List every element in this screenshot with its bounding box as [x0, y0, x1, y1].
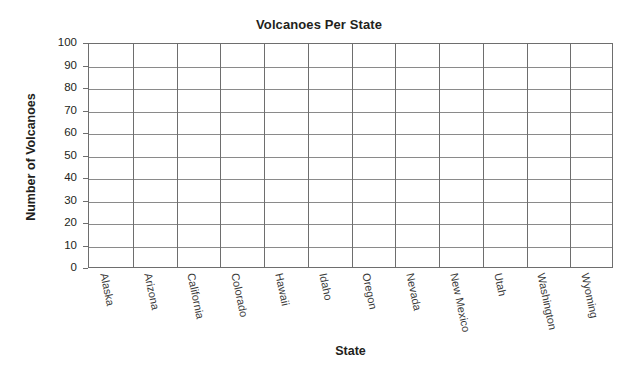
x-axis-tick-label: Washington: [536, 272, 560, 331]
y-axis-tick-labels: 1009080706050403020100: [41, 0, 77, 369]
x-axis-tick-label-slot: Oregon: [351, 268, 395, 343]
vertical-gridlines: [89, 44, 612, 267]
x-axis-tick-label-slot: New Mexico: [438, 268, 482, 343]
y-axis-title: Number of Volcanoes: [24, 57, 38, 257]
gridline-vertical: [527, 44, 528, 267]
y-axis-tick-label: 20: [41, 217, 77, 229]
gridline-vertical: [133, 44, 134, 267]
x-axis-tick-label: Hawaii: [273, 272, 292, 307]
y-axis-tick-label: 10: [41, 240, 77, 252]
x-axis-tick-label-slot: Arizona: [132, 268, 176, 343]
plot-area: [88, 43, 613, 268]
x-axis-tick-label-slot: Washington: [526, 268, 570, 343]
x-axis-tick-label-slot: Alaska: [88, 268, 132, 343]
gridline-vertical: [439, 44, 440, 267]
x-axis-tick-label: Utah: [492, 272, 509, 297]
y-axis-tick-label: 0: [41, 262, 77, 274]
x-axis-tick-labels: AlaskaArizonaCaliforniaColoradoHawaiiIda…: [88, 268, 613, 343]
x-axis-title: State: [88, 344, 613, 358]
x-axis-tick-label: Alaska: [98, 272, 117, 307]
gridline-vertical: [308, 44, 309, 267]
x-axis-tick-label-slot: Wyoming: [569, 268, 613, 343]
gridline-vertical: [395, 44, 396, 267]
x-axis-tick-label: Idaho: [317, 272, 334, 301]
y-axis-tick-label: 90: [41, 60, 77, 72]
x-axis-tick-label: California: [186, 272, 207, 320]
y-axis-tick-label: 100: [41, 37, 77, 49]
x-axis-tick-label-slot: Colorado: [219, 268, 263, 343]
gridline-vertical: [570, 44, 571, 267]
x-axis-tick-label: Oregon: [361, 272, 380, 310]
x-axis-tick-label: New Mexico: [448, 272, 472, 333]
gridline-vertical: [177, 44, 178, 267]
x-axis-tick-label-slot: California: [176, 268, 220, 343]
gridline-vertical: [483, 44, 484, 267]
x-axis-tick-label-slot: Nevada: [394, 268, 438, 343]
gridline-vertical: [264, 44, 265, 267]
x-axis-tick-label-slot: Hawaii: [263, 268, 307, 343]
x-axis-tick-label: Nevada: [404, 272, 424, 312]
gridline-vertical: [352, 44, 353, 267]
x-axis-tick-label-slot: Utah: [482, 268, 526, 343]
x-axis-tick-label: Arizona: [142, 272, 161, 311]
y-axis-tick-label: 50: [41, 150, 77, 162]
y-axis-tick-label: 40: [41, 172, 77, 184]
y-axis-tick-label: 30: [41, 195, 77, 207]
x-axis-tick-label-slot: Idaho: [307, 268, 351, 343]
y-axis-tick-label: 80: [41, 82, 77, 94]
y-axis-tick-label: 60: [41, 127, 77, 139]
gridline-vertical: [220, 44, 221, 267]
y-axis-tick-label: 70: [41, 105, 77, 117]
x-axis-tick-label: Wyoming: [579, 272, 600, 319]
chart-title: Volcanoes Per State: [0, 17, 638, 32]
x-axis-tick-label: Colorado: [229, 272, 250, 318]
